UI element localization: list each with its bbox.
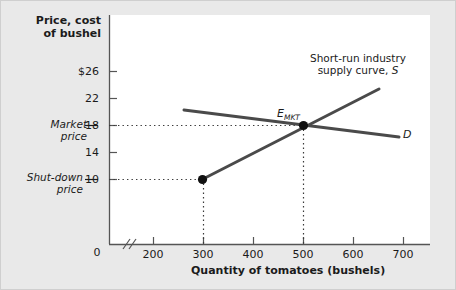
supply-curve-symbol: S xyxy=(392,64,399,76)
x-tick-label-700: 700 xyxy=(383,248,423,261)
equilibrium-point-label: EMKT xyxy=(277,108,300,123)
chart-figure: Price, cost of bushel xyxy=(0,0,456,290)
equilibrium-label-subscript: MKT xyxy=(284,113,300,122)
supply-curve-label-line1: Short-run industry xyxy=(310,52,406,64)
x-tick-label-400: 400 xyxy=(233,248,273,261)
x-tick-label-600: 600 xyxy=(333,248,373,261)
shutdown-price-line1: Shut-down xyxy=(27,171,83,183)
shutdown-price-annotation: Shut-down price xyxy=(21,171,83,195)
y-tick-label-26: $26 xyxy=(53,65,99,78)
y-tick-label-14: 14 xyxy=(53,146,99,159)
equilibrium-label-main: E xyxy=(277,107,284,120)
x-axis-title: Quantity of tomatoes (bushels) xyxy=(191,265,385,278)
market-price-line1: Market xyxy=(51,118,87,130)
supply-curve-label: Short-run industry supply curve, S xyxy=(297,52,419,76)
market-price-annotation: Market price xyxy=(25,118,87,142)
x-tick-label-300: 300 xyxy=(183,248,223,261)
demand-curve-label: D xyxy=(403,129,411,142)
market-price-line2: price xyxy=(61,130,87,142)
shutdown-point-marker xyxy=(198,175,207,184)
equilibrium-point-marker xyxy=(299,121,308,130)
shutdown-price-line2: price xyxy=(57,183,83,195)
supply-curve-label-line2: supply curve, xyxy=(318,64,392,76)
x-tick-label-200: 200 xyxy=(133,248,173,261)
origin-label: 0 xyxy=(89,247,105,260)
plot-area xyxy=(109,15,430,244)
y-tick-label-22: 22 xyxy=(53,92,99,105)
x-tick-label-500: 500 xyxy=(283,248,323,261)
